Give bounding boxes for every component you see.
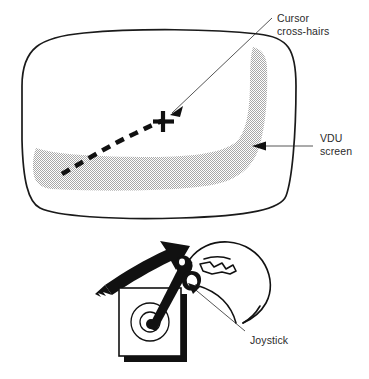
label-vdu-line2: screen	[320, 145, 352, 157]
base-shadow-bottom	[124, 356, 187, 362]
label-vdu-line1: VDU	[320, 132, 342, 144]
base-shadow-right	[181, 294, 187, 362]
leader-line-joystick	[191, 286, 245, 331]
label-cursor-line2: cross-hairs	[277, 25, 329, 37]
hand-outline	[190, 242, 270, 323]
leader-joystick	[188, 283, 245, 331]
stick-knob-highlight	[179, 259, 185, 266]
hand-finger-detail	[200, 262, 236, 274]
label-cursor-line1: Cursor	[277, 12, 310, 24]
hand-thumb-contour	[196, 285, 236, 323]
figure-root: Cursor cross-hairs VDU screen Joystick	[0, 0, 369, 379]
figure-canvas: Cursor cross-hairs VDU screen Joystick	[0, 0, 369, 379]
hand-crease-upper	[204, 257, 230, 259]
vdu-monitor[interactable]	[22, 30, 296, 219]
label-joystick: Joystick	[250, 334, 289, 346]
operator-hand	[190, 242, 270, 323]
